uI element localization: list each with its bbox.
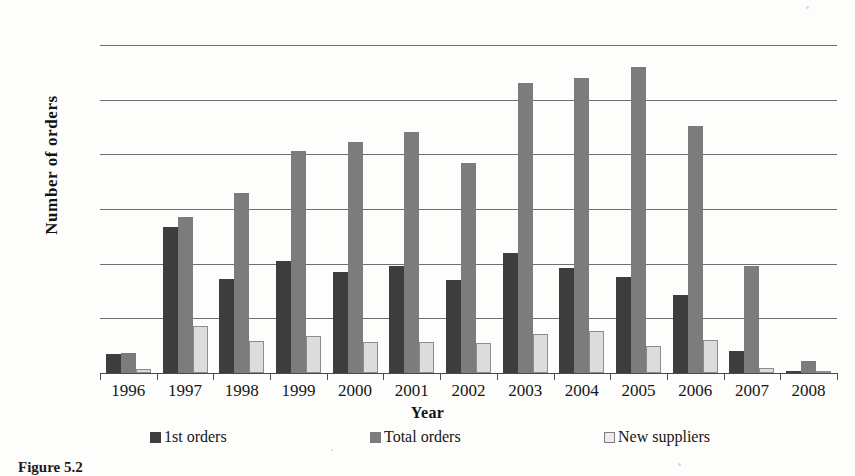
bar[interactable] — [276, 261, 291, 373]
bar[interactable] — [136, 369, 151, 373]
x-tick-label: 2006 — [667, 381, 724, 401]
bar[interactable] — [121, 353, 136, 373]
bar-group — [780, 45, 837, 373]
legend-item[interactable]: Total orders — [370, 428, 461, 446]
bars — [724, 45, 781, 373]
x-tick-mark — [610, 373, 611, 380]
bar-group — [724, 45, 781, 373]
legend-swatch-icon — [370, 432, 381, 443]
legend-item[interactable]: 1st orders — [150, 428, 227, 446]
x-axis-tick-labels: 1996199719981999200020012002200320042005… — [100, 381, 837, 401]
bar[interactable] — [163, 227, 178, 374]
x-tick-label: 2003 — [497, 381, 554, 401]
bar[interactable] — [786, 371, 801, 373]
bars — [157, 45, 214, 373]
bar[interactable] — [759, 368, 774, 373]
bar-group — [157, 45, 214, 373]
x-tick-mark — [440, 373, 441, 380]
bar[interactable] — [744, 266, 759, 373]
x-tick-mark — [497, 373, 498, 380]
bars — [213, 45, 270, 373]
bar[interactable] — [219, 279, 234, 373]
scan-speckle — [678, 463, 681, 466]
x-tick-label: 1996 — [100, 381, 157, 401]
bar[interactable] — [646, 346, 661, 373]
bar[interactable] — [461, 163, 476, 373]
gridline-0 — [100, 373, 837, 374]
bar[interactable] — [518, 83, 533, 373]
legend-swatch-icon — [604, 432, 615, 443]
plot-area: 050100150200250300 — [100, 45, 837, 373]
bar-group — [383, 45, 440, 373]
bar[interactable] — [616, 277, 631, 373]
bars — [100, 45, 157, 373]
x-tick-mark — [327, 373, 328, 380]
x-tick-label: 2007 — [724, 381, 781, 401]
x-tick-label: 2002 — [440, 381, 497, 401]
bar[interactable] — [348, 142, 363, 373]
x-tick-mark — [100, 373, 101, 380]
legend-label: 1st orders — [164, 428, 227, 446]
bar[interactable] — [574, 78, 589, 373]
bar[interactable] — [476, 343, 491, 373]
bar[interactable] — [801, 361, 816, 373]
x-tick-label: 2004 — [554, 381, 611, 401]
bar[interactable] — [673, 295, 688, 373]
bar[interactable] — [703, 340, 718, 373]
x-tick-mark — [837, 373, 838, 380]
legend-label: New suppliers — [618, 428, 710, 446]
bar[interactable] — [389, 266, 404, 373]
x-tick-label: 2000 — [327, 381, 384, 401]
bar[interactable] — [306, 336, 321, 373]
bar[interactable] — [363, 342, 378, 373]
bars — [497, 45, 554, 373]
legend-item[interactable]: New suppliers — [604, 428, 710, 446]
y-axis-title: Number of orders — [42, 50, 62, 280]
x-tick-label: 2001 — [383, 381, 440, 401]
bar[interactable] — [816, 371, 831, 373]
bar-group — [440, 45, 497, 373]
bar-chart-figure: Number of orders 050100150200250300 1996… — [0, 0, 855, 455]
x-tick-mark — [157, 373, 158, 380]
bar[interactable] — [333, 272, 348, 373]
x-tick-mark — [780, 373, 781, 380]
bar-groups — [100, 45, 837, 373]
x-tick-mark — [554, 373, 555, 380]
bar[interactable] — [729, 351, 744, 373]
bar[interactable] — [106, 354, 121, 373]
bar[interactable] — [446, 280, 461, 373]
bar[interactable] — [589, 331, 604, 373]
x-tick-label: 2008 — [780, 381, 837, 401]
bar[interactable] — [559, 268, 574, 373]
x-tick-mark — [667, 373, 668, 380]
bar[interactable] — [404, 132, 419, 373]
bar[interactable] — [178, 217, 193, 373]
x-tick-label: 1997 — [157, 381, 214, 401]
bar-group — [327, 45, 384, 373]
bar[interactable] — [631, 67, 646, 373]
chart-legend: 1st ordersTotal ordersNew suppliers — [150, 428, 710, 446]
bar[interactable] — [193, 326, 208, 373]
bars — [440, 45, 497, 373]
bar-group — [270, 45, 327, 373]
bar[interactable] — [688, 126, 703, 373]
scan-speckle — [806, 6, 809, 9]
legend-swatch-icon — [150, 432, 161, 443]
bar[interactable] — [503, 253, 518, 373]
bars — [780, 45, 837, 373]
x-tick-label: 2005 — [610, 381, 667, 401]
bar-group — [100, 45, 157, 373]
scan-speckle — [331, 449, 333, 451]
bars — [327, 45, 384, 373]
figure-caption: Figure 5.2 — [18, 459, 83, 476]
x-tick-mark — [213, 373, 214, 380]
x-tick-label: 1999 — [270, 381, 327, 401]
bar[interactable] — [419, 342, 434, 373]
x-tick-mark — [383, 373, 384, 380]
bar-group — [667, 45, 724, 373]
bar[interactable] — [533, 334, 548, 373]
bar[interactable] — [249, 341, 264, 373]
bar[interactable] — [234, 193, 249, 373]
bars — [383, 45, 440, 373]
bar[interactable] — [291, 151, 306, 373]
